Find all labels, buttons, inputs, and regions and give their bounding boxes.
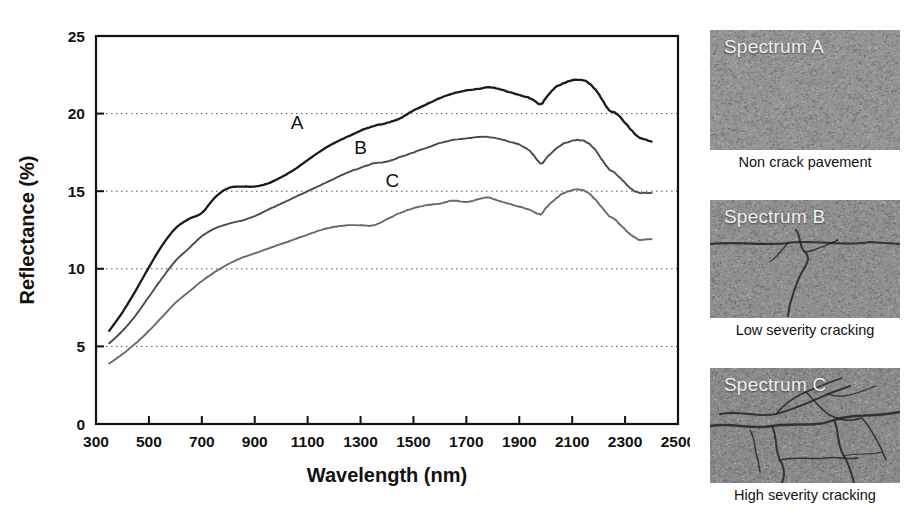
panel-spectrum-c: Spectrum C High severity cracking [710,368,900,503]
xtick-label-1300: 1300 [343,433,377,450]
panel-spectrum-b: Spectrum B Low severity cracking [710,200,900,338]
xtick-label-2100: 2100 [555,433,589,450]
curve-label-c: C [385,170,399,191]
xtick-label-900: 900 [242,433,268,450]
y-axis-title: Reflectance (%) [16,156,38,305]
panel-c-caption: High severity cracking [710,483,900,503]
xtick-label-1700: 1700 [449,433,483,450]
panel-c-tag: Spectrum C [724,374,826,396]
pavement-photo-panels: Spectrum A Non crack pavement Spectrum B… [690,0,912,520]
photo-non-crack-pavement: Spectrum A [710,30,900,150]
panel-spectrum-a: Spectrum A Non crack pavement [710,30,900,170]
curve-b [109,137,651,344]
xtick-label-1500: 1500 [396,433,430,450]
plot-frame [96,36,678,424]
chart-svg: 0510152025300500700900110013001500170019… [0,0,690,520]
curve-label-b: B [354,137,367,158]
curve-label-a: A [291,112,304,133]
ytick-label-15: 15 [68,183,86,200]
ytick-label-20: 20 [68,105,85,122]
xtick-label-700: 700 [189,433,215,450]
x-axis-title: Wavelength (nm) [307,464,467,486]
xtick-label-500: 500 [136,433,162,450]
chart-reflectance-vs-wavelength: 0510152025300500700900110013001500170019… [0,0,690,520]
panel-b-tag: Spectrum B [724,206,825,228]
xtick-label-2300: 2300 [608,433,642,450]
xtick-label-1100: 1100 [291,433,325,450]
xtick-label-300: 300 [83,433,109,450]
curve-c [109,189,651,363]
ytick-label-10: 10 [68,260,85,277]
curve-a [109,80,651,331]
panel-b-caption: Low severity cracking [710,318,900,338]
panel-a-caption: Non crack pavement [710,150,900,170]
figure-spectral-reflectance-pavement: 0510152025300500700900110013001500170019… [0,0,912,520]
xtick-label-1900: 1900 [502,433,536,450]
photo-low-severity-cracking: Spectrum B [710,200,900,318]
panel-a-tag: Spectrum A [724,36,824,58]
photo-high-severity-cracking: Spectrum C [710,368,900,483]
xtick-label-2500: 2500 [661,433,690,450]
ytick-label-5: 5 [76,338,85,355]
ytick-label-0: 0 [76,416,85,433]
ytick-label-25: 25 [68,28,86,45]
